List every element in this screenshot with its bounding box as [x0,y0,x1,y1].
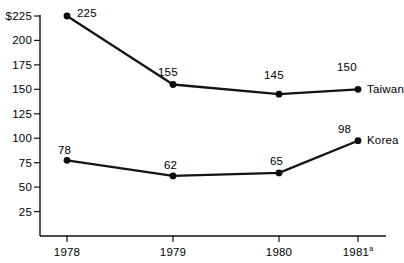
y-tick-label: $225 [0,11,32,23]
data-point [170,173,177,180]
y-tick-label: 150 [0,84,32,96]
y-tick-label: 100 [0,133,32,145]
series-taiwan-line [67,16,358,94]
data-point [276,170,283,177]
y-tick-label: 200 [0,35,32,47]
series-korea-line [67,141,358,176]
x-tick-label-1981-year: 1981 [343,246,369,258]
data-label: 98 [338,124,351,136]
y-tick-label: 25 [0,207,32,219]
data-point [276,91,283,98]
data-label: 145 [264,70,284,82]
x-axis-ticks [67,236,358,242]
y-axis-ticks [34,16,40,212]
y-tick-label: 50 [0,182,32,194]
data-label: 62 [164,160,177,172]
y-tick-label: 175 [0,60,32,72]
data-point [170,81,177,88]
data-label: 78 [58,145,71,157]
x-tick-label-1981: 1981a [331,247,385,259]
data-label: 225 [77,8,97,20]
footnote-marker: a [369,245,373,252]
data-point [64,13,71,20]
x-tick-label-1979: 1979 [146,247,200,259]
data-point [355,86,362,93]
y-tick-label: 125 [0,109,32,121]
series-label-taiwan: Taiwan [367,84,404,96]
series-korea [64,137,362,179]
y-tick-label: 75 [0,158,32,170]
series-taiwan [64,13,362,98]
data-label: 155 [158,67,178,79]
x-tick-label-1978: 1978 [40,247,94,259]
series-label-korea: Korea [367,135,399,147]
data-label: 150 [337,62,357,74]
x-tick-label-1980: 1980 [252,247,306,259]
data-point [64,157,71,164]
data-point [355,137,362,144]
data-label: 65 [270,156,283,168]
